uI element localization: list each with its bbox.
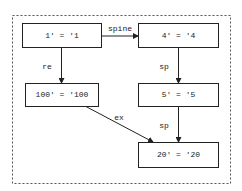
edge-label-ex: ex: [114, 113, 124, 122]
node-label: 100' = '100: [36, 90, 89, 99]
node-label: 5' = '5: [162, 90, 196, 99]
edge-label-spine: spine: [108, 24, 132, 33]
edge-sp-4-5: sp: [159, 48, 178, 83]
node-1: 1' = '1: [23, 24, 102, 48]
node-4: 4' = '4: [139, 24, 219, 48]
edge-re: re: [42, 48, 61, 83]
node-5: 5' = '5: [139, 84, 219, 107]
diagram-canvas: spine re sp ex sp 1' = '1 4' = '4 100' =…: [0, 0, 242, 191]
edge-line-ex: [85, 106, 153, 142]
node-label: 1' = '1: [45, 31, 79, 40]
edge-sp-5-20: sp: [159, 106, 178, 142]
edge-ex: ex: [85, 106, 153, 142]
node-20: 20' = '20: [139, 143, 219, 168]
edge-spine: spine: [101, 24, 138, 36]
node-label: 4' = '4: [162, 31, 196, 40]
edge-label-sp-5-20: sp: [159, 121, 169, 130]
edge-label-sp-4-5: sp: [159, 62, 169, 71]
node-label: 20' = '20: [157, 150, 200, 159]
node-100: 100' = '100: [26, 84, 99, 107]
edge-label-re: re: [42, 62, 52, 71]
